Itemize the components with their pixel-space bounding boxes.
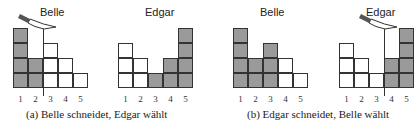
- bar-cell: [248, 73, 263, 88]
- bar-cell: [28, 58, 43, 73]
- bar-cell: [43, 73, 58, 88]
- bar-cell: [178, 43, 193, 58]
- x-tick: 1: [118, 94, 133, 104]
- x-tick: 5: [399, 94, 414, 104]
- figure-caption-b: (b) Edgar schneidet, Belle wählt: [247, 108, 389, 120]
- bar-cell: [178, 73, 193, 88]
- bar-cell: [58, 73, 73, 88]
- bar-cell: [28, 73, 43, 88]
- bar-cell: [118, 73, 133, 88]
- bar-cell: [13, 58, 28, 73]
- x-tick: 4: [163, 94, 178, 104]
- bar-cell: [13, 73, 28, 88]
- bar-cell: [399, 73, 414, 88]
- x-tick: 1: [13, 94, 28, 104]
- bar-cell: [369, 73, 384, 88]
- bar-cell: [339, 73, 354, 88]
- bar-cell: [354, 73, 369, 88]
- bar-cell: [339, 58, 354, 73]
- x-tick: 3: [148, 94, 163, 104]
- bar-cell: [399, 28, 414, 43]
- knife-icon: [359, 11, 399, 31]
- bar-cell: [148, 73, 163, 88]
- bar-cell: [384, 58, 399, 73]
- bar-cell: [43, 43, 58, 58]
- bar-cell: [133, 73, 148, 88]
- bar-cell: [293, 73, 308, 88]
- x-tick: 2: [354, 94, 369, 104]
- bar-cell: [178, 58, 193, 73]
- chart-label: Edgar: [145, 6, 174, 18]
- bar-cell: [263, 73, 278, 88]
- bar-cell: [73, 73, 88, 88]
- x-tick: 4: [58, 94, 73, 104]
- x-tick: 5: [293, 94, 308, 104]
- bar-cell: [399, 43, 414, 58]
- bar-cell: [43, 58, 58, 73]
- bar-cell: [58, 58, 73, 73]
- bar-cell: [399, 58, 414, 73]
- bar-cell: [354, 58, 369, 73]
- x-tick: 4: [278, 94, 293, 104]
- x-tick: 2: [248, 94, 263, 104]
- bar-cell: [233, 73, 248, 88]
- x-tick: 2: [28, 94, 43, 104]
- bar-cell: [339, 43, 354, 58]
- x-tick: 5: [178, 94, 193, 104]
- cut-line: [384, 26, 385, 96]
- x-tick: 1: [233, 94, 248, 104]
- bar-cell: [118, 58, 133, 73]
- x-tick: 3: [263, 94, 278, 104]
- bar-cell: [263, 43, 278, 58]
- bar-cell: [384, 73, 399, 88]
- bar-cell: [13, 43, 28, 58]
- bar-cell: [263, 58, 278, 73]
- bar-cell: [248, 58, 263, 73]
- chart-label: Belle: [260, 6, 284, 18]
- bar-cell: [133, 58, 148, 73]
- x-tick: 3: [369, 94, 384, 104]
- bar-cell: [163, 58, 178, 73]
- bar-cell: [233, 58, 248, 73]
- cut-line: [43, 26, 44, 96]
- bar-cell: [233, 43, 248, 58]
- bar-cell: [178, 28, 193, 43]
- figure-caption-a: (a) Belle schneidet, Edgar wählt: [26, 108, 167, 120]
- bar-cell: [278, 73, 293, 88]
- x-tick: 2: [133, 94, 148, 104]
- knife-icon: [18, 11, 58, 31]
- bar-cell: [118, 43, 133, 58]
- bar-cell: [233, 28, 248, 43]
- bar-cell: [278, 58, 293, 73]
- x-tick: 3: [43, 94, 58, 104]
- x-tick: 1: [339, 94, 354, 104]
- x-tick: 5: [73, 94, 88, 104]
- bar-cell: [163, 73, 178, 88]
- x-tick: 4: [384, 94, 399, 104]
